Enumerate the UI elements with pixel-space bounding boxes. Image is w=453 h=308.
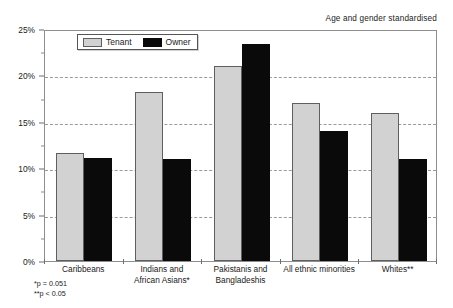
chart-legend: TenantOwner xyxy=(77,34,198,50)
plot-inner xyxy=(45,31,436,261)
standardised-annotation: Age and gender standardised xyxy=(326,14,437,23)
legend-swatch-icon xyxy=(143,38,162,47)
bar-group xyxy=(135,31,191,261)
x-tick-label-line: Indians and xyxy=(123,264,202,275)
bar-owner xyxy=(163,159,191,261)
y-tick-label: 25% xyxy=(18,25,35,35)
legend-swatch-icon xyxy=(83,38,102,47)
legend-label: Tenant xyxy=(106,37,132,47)
bar-tenant xyxy=(371,113,399,261)
x-separator-tick xyxy=(436,259,437,264)
x-tick-label-line: Caribbeans xyxy=(44,264,123,275)
x-tick-label: Caribbeans xyxy=(44,264,123,275)
chart-figure: Age and gender standardised 0%5%10%15%20… xyxy=(0,0,453,308)
bar-owner xyxy=(84,158,112,261)
x-separator-tick xyxy=(358,259,359,264)
plot-area xyxy=(44,30,437,262)
y-tick-label: 10% xyxy=(18,164,35,174)
footnote: **p < 0.05 xyxy=(34,289,67,299)
legend-label: Owner xyxy=(166,37,191,47)
bar-owner xyxy=(320,131,348,261)
y-tick-label: 0% xyxy=(23,257,35,267)
y-axis: 0%5%10%15%20%25% xyxy=(0,30,44,262)
x-axis: CaribbeansIndians andAfrican Asians*Paki… xyxy=(44,264,437,304)
bar-tenant xyxy=(292,103,320,261)
x-tick-label-line: Whites** xyxy=(358,264,437,275)
bar-owner xyxy=(399,159,427,261)
x-tick-label-line: All ethnic minorities xyxy=(280,264,359,275)
x-tick-label-line: African Asians* xyxy=(123,275,202,286)
x-tick-label-line: Bangladeshis xyxy=(201,275,280,286)
bar-group xyxy=(214,31,270,261)
footnote: *p = 0.051 xyxy=(34,279,67,289)
x-separator-tick xyxy=(123,259,124,264)
bar-tenant xyxy=(56,153,84,261)
bar-group xyxy=(56,31,112,261)
x-separator-tick xyxy=(280,259,281,264)
x-separator-tick xyxy=(201,259,202,264)
footnotes: *p = 0.051**p < 0.05 xyxy=(34,279,67,298)
x-tick-label: Whites** xyxy=(358,264,437,275)
y-tick-label: 15% xyxy=(18,118,35,128)
bar-group xyxy=(292,31,348,261)
bar-tenant xyxy=(135,92,163,261)
y-tick-label: 5% xyxy=(23,211,35,221)
bar-owner xyxy=(242,44,270,261)
x-tick-label: Pakistanis andBangladeshis xyxy=(201,264,280,285)
legend-item-tenant: Tenant xyxy=(83,37,132,47)
x-separator-tick xyxy=(44,259,45,264)
x-tick-label: Indians andAfrican Asians* xyxy=(123,264,202,285)
y-tick-label: 20% xyxy=(18,71,35,81)
x-tick-label: All ethnic minorities xyxy=(280,264,359,275)
legend-item-owner: Owner xyxy=(143,37,191,47)
x-tick-label-line: Pakistanis and xyxy=(201,264,280,275)
bar-tenant xyxy=(214,66,242,261)
bar-group xyxy=(371,31,427,261)
